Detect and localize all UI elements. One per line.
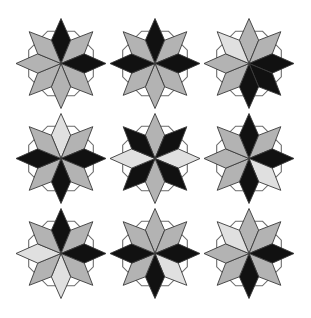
rosette-r3c1 xyxy=(16,209,106,299)
rosette-r1c2 xyxy=(110,19,200,109)
rosette-r2c3 xyxy=(204,114,294,204)
rosette-r1c3 xyxy=(204,19,294,109)
pattern-canvas xyxy=(0,0,311,318)
rosette-r2c2 xyxy=(110,114,200,204)
rosette-r1c1 xyxy=(16,19,106,109)
rosette-r3c3 xyxy=(204,209,294,299)
rosette-r3c2 xyxy=(110,209,200,299)
rosette-pattern-svg xyxy=(0,0,311,318)
rosette-r2c1 xyxy=(16,114,106,204)
